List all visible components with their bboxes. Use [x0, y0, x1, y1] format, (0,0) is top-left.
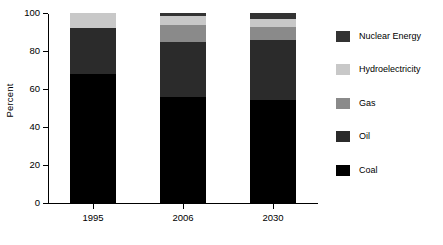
- legend-swatch-icon: [336, 64, 350, 75]
- y-axis-tick-label: 20: [29, 159, 40, 170]
- y-axis-tick: 100: [43, 13, 48, 14]
- x-axis-tick: [93, 204, 94, 209]
- legend-item-hydroelectricity[interactable]: Hydroelectricity: [336, 64, 421, 76]
- bar-segment-gas: [160, 25, 206, 41]
- x-axis-tick-label: 2006: [153, 212, 213, 223]
- y-axis-tick-label: 60: [29, 83, 40, 94]
- legend-item-label: Gas: [359, 98, 376, 109]
- bar-segment-hydroelectricity: [160, 16, 206, 26]
- legend-item-gas[interactable]: Gas: [336, 97, 376, 109]
- legend-item-oil[interactable]: Oil: [336, 131, 370, 143]
- bar-segment-nuclear-energy: [160, 13, 206, 16]
- bar-segment-nuclear-energy: [250, 13, 296, 19]
- bar-segment-oil: [70, 28, 116, 74]
- bar-segment-gas: [250, 27, 296, 39]
- y-axis-title: Percent: [2, 0, 16, 200]
- x-axis-tick: [273, 204, 274, 209]
- x-axis-tick-label: 1995: [63, 212, 123, 223]
- x-axis-tick-label: 2030: [243, 212, 303, 223]
- legend-swatch-icon: [336, 31, 350, 42]
- legend-item-label: Nuclear Energy: [359, 31, 421, 42]
- y-axis-tick: 40: [43, 127, 48, 128]
- x-axis-tick: [183, 204, 184, 209]
- plot-area: 020406080100 199520062030: [48, 14, 318, 204]
- y-axis-tick: 0: [43, 203, 48, 204]
- bar-1995: [70, 13, 116, 203]
- y-axis-title-text: Percent: [4, 83, 15, 117]
- bar-segment-oil: [160, 42, 206, 97]
- bar-2006: [160, 13, 206, 203]
- bar-segment-oil: [250, 40, 296, 101]
- legend-item-nuclear-energy[interactable]: Nuclear Energy: [336, 30, 421, 42]
- y-axis-tick-label: 80: [29, 45, 40, 56]
- stacked-bar-chart: Percent 020406080100 199520062030 Nuclea…: [0, 0, 443, 245]
- bar-segment-hydroelectricity: [250, 19, 296, 28]
- y-axis-tick: 20: [43, 165, 48, 166]
- y-axis-tick-label: 0: [35, 197, 40, 208]
- legend-item-label: Coal: [359, 165, 378, 176]
- bar-segment-coal: [250, 100, 296, 203]
- legend-swatch-icon: [336, 98, 350, 109]
- bar-segment-coal: [160, 97, 206, 203]
- y-axis-tick-label: 40: [29, 121, 40, 132]
- legend-swatch-icon: [336, 165, 350, 176]
- y-axis-tick: 80: [43, 51, 48, 52]
- y-axis-tick-label: 100: [24, 7, 40, 18]
- bar-segment-coal: [70, 74, 116, 203]
- legend-item-coal[interactable]: Coal: [336, 164, 378, 176]
- legend-item-label: Hydroelectricity: [359, 64, 421, 75]
- bar-2030: [250, 13, 296, 203]
- legend-item-label: Oil: [359, 131, 370, 142]
- y-axis-tick: 60: [43, 89, 48, 90]
- y-axis-line: [48, 14, 49, 204]
- legend-swatch-icon: [336, 131, 350, 142]
- bar-segment-hydroelectricity: [70, 13, 116, 28]
